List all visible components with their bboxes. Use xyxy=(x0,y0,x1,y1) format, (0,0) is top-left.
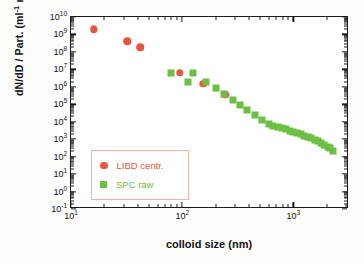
x-tick-minor-top xyxy=(157,17,158,20)
y-tick-major-right xyxy=(342,104,347,105)
y-tick-minor xyxy=(71,111,74,112)
y-tick-minor xyxy=(71,90,74,91)
data-point-libd xyxy=(137,44,145,52)
y-tick-minor xyxy=(71,89,74,90)
y-tick-minor xyxy=(71,141,74,142)
y-tick-minor xyxy=(71,105,74,106)
y-tick-minor xyxy=(71,193,74,194)
y-tick-minor xyxy=(71,43,74,44)
y-tick-minor xyxy=(71,81,74,82)
y-tick-major-right xyxy=(342,191,347,192)
y-tick-minor xyxy=(71,116,74,117)
y-tick-minor xyxy=(71,57,74,58)
x-tick-minor xyxy=(177,204,178,207)
y-tick-minor xyxy=(71,53,74,54)
y-tick-label: 101 xyxy=(53,169,67,179)
y-tick-minor-right xyxy=(344,179,347,180)
y-tick-minor-right xyxy=(344,163,347,164)
x-tick-minor-top xyxy=(346,17,347,20)
y-axis-label-text-prefix: dN/dD / Part. (ml xyxy=(13,13,25,96)
y-tick-major xyxy=(71,69,76,70)
y-tick-minor xyxy=(71,46,74,47)
y-tick-major-right xyxy=(342,34,347,35)
x-tick-minor-top xyxy=(288,17,289,20)
y-tick-major-right xyxy=(342,69,347,70)
y-tick-minor-right xyxy=(344,165,347,166)
y-tick-minor-right xyxy=(344,144,347,145)
y-tick-major-right xyxy=(342,51,347,52)
y-tick-minor xyxy=(71,39,74,40)
data-point-spc xyxy=(236,102,243,109)
y-tick-minor-right xyxy=(344,58,347,59)
y-tick-minor-right xyxy=(344,26,347,27)
y-tick-minor-right xyxy=(344,20,347,21)
y-tick-minor-right xyxy=(344,123,347,124)
x-tick-minor xyxy=(164,204,165,207)
x-tick-label: 103 xyxy=(287,211,301,221)
y-tick-minor-right xyxy=(344,148,347,149)
y-tick-minor xyxy=(71,196,74,197)
x-tick-minor-top xyxy=(268,17,269,20)
x-tick-minor xyxy=(124,204,125,207)
y-tick-major xyxy=(71,139,76,140)
y-tick-label: 103 xyxy=(53,134,67,144)
data-point-spc xyxy=(168,70,175,77)
y-tick-minor-right xyxy=(344,181,347,182)
x-tick-minor xyxy=(171,204,172,207)
x-tick-major-top xyxy=(182,17,183,22)
y-tick-minor-right xyxy=(344,93,347,94)
legend-marker-square-icon xyxy=(100,181,107,188)
y-tick-minor-right xyxy=(344,41,347,42)
y-tick-minor-right xyxy=(344,133,347,134)
y-tick-major-right xyxy=(342,86,347,87)
x-tick-minor-top xyxy=(282,17,283,20)
y-tick-minor-right xyxy=(344,125,347,126)
y-tick-minor xyxy=(71,76,74,77)
y-tick-minor-right xyxy=(344,124,347,125)
y-tick-minor-right xyxy=(344,95,347,96)
x-tick-minor-top xyxy=(137,17,138,20)
y-tick-minor-right xyxy=(344,105,347,106)
y-tick-minor-right xyxy=(344,140,347,141)
y-tick-major xyxy=(71,51,76,52)
x-tick-minor-top xyxy=(276,17,277,20)
x-tick-minor-top xyxy=(326,17,327,20)
data-point-libd xyxy=(90,25,98,33)
x-tick-minor xyxy=(268,204,269,207)
y-tick-major xyxy=(71,104,76,105)
y-tick-minor xyxy=(71,140,74,141)
y-tick-minor xyxy=(71,88,74,89)
y-tick-minor xyxy=(71,123,74,124)
x-tick-minor xyxy=(259,204,260,207)
x-tick-minor-top xyxy=(104,17,105,20)
y-tick-minor-right xyxy=(344,183,347,184)
y-tick-minor xyxy=(71,37,74,38)
y-tick-minor-right xyxy=(344,194,347,195)
y-tick-minor xyxy=(71,38,74,39)
y-tick-minor xyxy=(71,124,74,125)
data-point-spc xyxy=(203,78,210,85)
y-tick-minor xyxy=(71,26,74,27)
chart-figure: dN/dD / Part. (ml-1 nm-1) colloid size (… xyxy=(0,0,364,264)
y-tick-minor xyxy=(71,71,74,72)
legend-marker-circle-icon xyxy=(100,162,108,170)
x-tick-major xyxy=(70,202,71,207)
y-tick-minor-right xyxy=(344,141,347,142)
y-tick-minor xyxy=(71,93,74,94)
y-tick-minor-right xyxy=(344,193,347,194)
y-tick-minor xyxy=(71,113,74,114)
y-tick-major-right xyxy=(342,156,347,157)
y-tick-major xyxy=(71,121,76,122)
x-tick-minor-top xyxy=(164,17,165,20)
y-tick-minor xyxy=(71,175,74,176)
y-tick-minor-right xyxy=(344,159,347,160)
y-tick-minor xyxy=(71,64,74,65)
y-tick-minor xyxy=(71,195,74,196)
y-tick-minor-right xyxy=(344,196,347,197)
y-tick-minor-right xyxy=(344,151,347,152)
y-tick-minor xyxy=(71,92,74,93)
y-tick-minor-right xyxy=(344,158,347,159)
y-tick-minor-right xyxy=(344,168,347,169)
x-tick-minor-top xyxy=(259,17,260,20)
y-tick-major-right xyxy=(342,139,347,140)
